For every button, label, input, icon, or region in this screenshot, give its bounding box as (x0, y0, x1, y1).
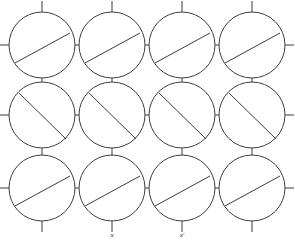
label-layer: x x′ (109, 231, 184, 239)
lattice-node (79, 155, 145, 221)
figure-root: x x′ (0, 0, 295, 242)
lattice-node (79, 82, 145, 148)
lattice-node (9, 155, 75, 221)
node-circle (79, 155, 145, 221)
label-x-prime: x′ (179, 231, 185, 239)
node-circle (219, 12, 285, 78)
node-circle (219, 155, 285, 221)
lattice-node (219, 82, 285, 148)
lattice-node (79, 12, 145, 78)
node-chord (15, 33, 70, 63)
node-circle (149, 12, 215, 78)
lattice-node (149, 82, 215, 148)
lattice-node (149, 12, 215, 78)
lattice-node (149, 155, 215, 221)
node-circle (79, 12, 145, 78)
lattice-node (9, 12, 75, 78)
circle-lattice-diagram: x x′ (0, 0, 295, 242)
node-chord (85, 176, 140, 206)
link-layer (42, 45, 252, 188)
node-chord (159, 93, 206, 139)
node-circle (149, 155, 215, 221)
node-chord (19, 93, 66, 139)
node-chord (229, 93, 276, 139)
lattice-node (9, 82, 75, 148)
node-chord (225, 33, 280, 63)
lattice-node (219, 155, 285, 221)
node-circle (9, 155, 75, 221)
node-chord (15, 176, 70, 206)
node-chord (225, 176, 280, 206)
label-x: x (109, 231, 114, 239)
node-chord (85, 33, 140, 63)
node-chord (155, 176, 210, 206)
node-layer (9, 12, 285, 221)
node-circle (9, 12, 75, 78)
node-chord (89, 93, 136, 139)
node-chord (155, 33, 210, 63)
lattice-node (219, 12, 285, 78)
stub-layer (0, 1, 294, 232)
